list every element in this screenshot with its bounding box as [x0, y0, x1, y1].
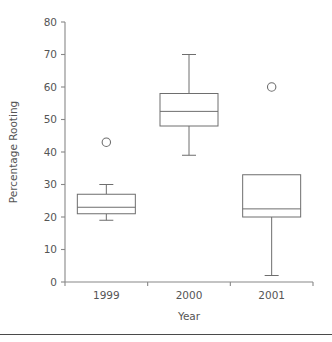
x-axis-title: Year	[177, 310, 201, 322]
y-tick-label: 0	[50, 276, 57, 288]
box-plot-2001	[243, 83, 301, 276]
footer-divider	[0, 334, 332, 335]
x-tick-label: 2001	[258, 289, 285, 301]
y-tick-label: 40	[44, 146, 57, 158]
box-iqr	[77, 194, 135, 214]
x-axis-ticks: 199920002001	[65, 282, 313, 301]
y-tick-label: 50	[44, 113, 57, 125]
y-tick-label: 30	[44, 178, 57, 190]
chart-canvas: 01020304050607080 199920002001 Percentag…	[0, 0, 332, 342]
box-iqr	[243, 175, 301, 217]
outlier-marker	[102, 138, 110, 146]
x-tick-label: 2000	[176, 289, 203, 301]
box-plot-1999	[77, 138, 135, 220]
y-tick-label: 60	[44, 81, 57, 93]
outlier-marker	[267, 83, 275, 91]
box-iqr	[160, 94, 218, 127]
x-tick-label: 1999	[93, 289, 120, 301]
box-plot-figure: 01020304050607080 199920002001 Percentag…	[0, 0, 332, 342]
box-plot-2000	[160, 55, 218, 156]
y-tick-label: 70	[44, 48, 57, 60]
y-tick-label: 10	[44, 243, 57, 255]
box-plot-series	[77, 55, 300, 276]
y-axis-ticks: 01020304050607080	[44, 16, 65, 288]
y-axis-title: Percentage Rooting	[7, 101, 19, 203]
y-tick-label: 80	[44, 16, 57, 28]
y-tick-label: 20	[44, 211, 57, 223]
